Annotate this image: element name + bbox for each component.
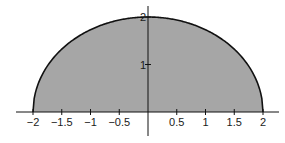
semicircle-chart: −2−1.5−1−0.50.511.52 12 — [0, 0, 285, 143]
x-tick-label: 2 — [260, 116, 266, 128]
x-tick-label: −0.5 — [108, 116, 130, 128]
y-tick-label: 2 — [140, 11, 146, 23]
x-tick-label: −1.5 — [51, 116, 73, 128]
x-tick-label: 1 — [202, 116, 208, 128]
y-tick-label: 1 — [140, 59, 146, 71]
x-tick-label: 1.5 — [227, 116, 242, 128]
x-tick-label: −1 — [84, 116, 97, 128]
x-tick-label: 0.5 — [169, 116, 184, 128]
x-tick-label: −2 — [27, 116, 40, 128]
